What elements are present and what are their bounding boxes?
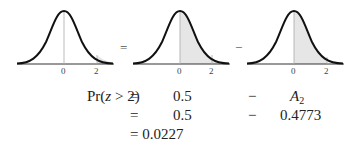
area-subscript: 2 bbox=[299, 95, 304, 106]
row2-term2: 0.4773 bbox=[280, 108, 321, 123]
row1-term1: 0.5 bbox=[173, 89, 192, 104]
row2-term1: 0.5 bbox=[173, 108, 192, 123]
tick-label-2: 2 bbox=[209, 67, 214, 76]
curve-middle bbox=[133, 11, 230, 64]
row1-minus: − bbox=[248, 89, 256, 104]
tick-label-2: 2 bbox=[324, 67, 329, 76]
tick-label-0: 0 bbox=[61, 67, 66, 76]
result-value: = 0.0227 bbox=[130, 127, 183, 142]
lhs-prefix: Pr( bbox=[87, 88, 105, 104]
equals-sign: = bbox=[120, 40, 127, 56]
tick-label-0: 0 bbox=[177, 67, 182, 76]
curve-left bbox=[17, 11, 114, 64]
tick-label-0: 0 bbox=[291, 67, 296, 76]
row2-equals: = bbox=[130, 108, 138, 123]
row1-term2: A2 bbox=[290, 89, 304, 108]
normal-curves-figure bbox=[0, 0, 352, 80]
minus-sign: − bbox=[235, 40, 242, 56]
row2-minus: − bbox=[248, 108, 256, 123]
area-symbol: A bbox=[290, 88, 299, 104]
curve-right bbox=[247, 11, 344, 64]
tick-label-2: 2 bbox=[94, 67, 99, 76]
row1-equals: = bbox=[130, 89, 138, 104]
